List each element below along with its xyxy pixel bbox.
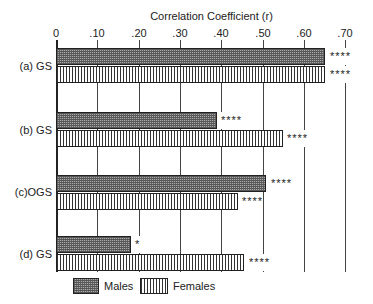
- tick-label-30: .30: [172, 27, 187, 39]
- legend-swatch-females: [140, 278, 168, 294]
- significance-c-males: ****: [271, 175, 292, 192]
- bar-c-males: [56, 175, 266, 192]
- significance-b-females: ****: [287, 130, 308, 147]
- tick-label-50: .50: [255, 27, 270, 39]
- tick-label-10: .10: [89, 27, 104, 39]
- category-label-b: (b) GS: [2, 124, 52, 136]
- significance-d-males: *: [135, 236, 140, 253]
- bar-b-males: [56, 112, 217, 129]
- legend-label-males: Males: [104, 280, 133, 292]
- legend: Males Females: [70, 276, 300, 296]
- tick-label-0: 0: [53, 27, 59, 39]
- category-label-a: (a) GS: [2, 60, 52, 72]
- bar-b-females: [56, 130, 283, 147]
- bar-d-males: [56, 236, 131, 253]
- x-axis-title: Correlation Coefficient (r): [0, 10, 373, 22]
- category-label-c: (c)OGS: [2, 186, 52, 198]
- legend-label-females: Females: [173, 280, 215, 292]
- legend-swatch-males: [73, 278, 99, 294]
- tick-label-60: .60: [296, 27, 311, 39]
- tick-label-40: .40: [213, 27, 228, 39]
- bar-c-females: [56, 193, 238, 210]
- significance-a-males: ****: [330, 48, 351, 65]
- tick-label-20: .20: [131, 27, 146, 39]
- category-label-d: (d) GS: [2, 248, 52, 260]
- bar-a-females: [56, 66, 325, 83]
- significance-a-females: ****: [330, 66, 351, 83]
- significance-d-females: ****: [249, 254, 270, 271]
- significance-c-females: ****: [242, 193, 263, 210]
- significance-b-males: ****: [221, 112, 242, 129]
- bar-a-males: [56, 48, 325, 65]
- bar-d-females: [56, 254, 244, 271]
- tick-label-70: .70: [337, 27, 352, 39]
